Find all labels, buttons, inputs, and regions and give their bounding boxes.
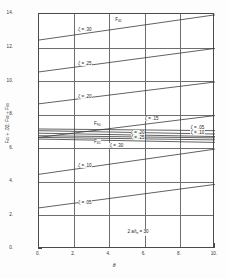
data-line	[39, 48, 215, 72]
series-label: ζ = .15	[145, 116, 159, 121]
x-tick-label: 4.	[98, 251, 118, 256]
x-tick-label: 10.	[204, 251, 224, 256]
x-tick-label: 2.	[63, 251, 83, 256]
figure-container: 14.12.10.8.6.4.2.0. 0.2.4.6.8.10. F45 + …	[0, 0, 228, 278]
data-lines	[39, 14, 215, 249]
x-tick-label: 6.	[134, 251, 154, 256]
chart-annotation: F45	[94, 139, 101, 146]
y-tick-label: 14.	[0, 10, 13, 15]
y-tick-label: 2.	[0, 212, 13, 217]
data-line	[39, 129, 215, 131]
x-tick-label: 8.	[169, 251, 189, 256]
series-label: ζ = .10	[78, 163, 92, 168]
data-line	[39, 116, 215, 138]
y-tick-label: 12.	[0, 44, 13, 49]
series-label: ζ = .25	[78, 61, 92, 66]
y-axis-title: F45 + .02; F90 ÷ F90	[5, 68, 12, 178]
y-tick-label: 0.	[0, 245, 13, 250]
data-line	[39, 82, 215, 104]
data-line	[39, 15, 215, 40]
chart-annotation: F45	[115, 17, 122, 24]
chart-annotation: 2 a/te = 30	[127, 229, 149, 236]
chart-annotation: F90	[94, 121, 101, 128]
data-line	[39, 184, 215, 208]
data-line	[39, 149, 215, 174]
series-label: ζ = .10	[190, 130, 204, 135]
series-label: ζ = .30	[109, 143, 123, 148]
x-tick-label: 0.	[28, 251, 48, 256]
x-axis-title: θ	[0, 262, 228, 268]
series-label: ζ = .30	[78, 27, 92, 32]
series-label: ζ = .20	[131, 130, 145, 135]
series-label: ζ = .20	[78, 94, 92, 99]
series-label: ζ = .25	[131, 135, 145, 140]
plot-area: ζ = .30ζ = .25ζ = .20ζ = .15ζ = .10ζ = .…	[38, 13, 214, 248]
series-label: ζ = .05	[78, 200, 92, 205]
y-tick-label: 4.	[0, 178, 13, 183]
